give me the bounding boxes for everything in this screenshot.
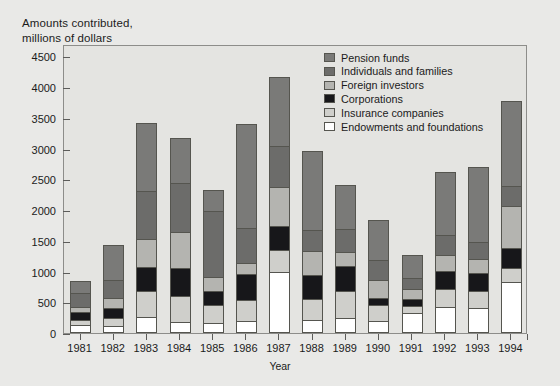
bar-segment[interactable] — [236, 124, 257, 228]
bar-segment[interactable] — [402, 278, 423, 289]
bar-segment[interactable] — [402, 289, 423, 298]
bar-segment[interactable] — [468, 259, 489, 274]
bar-segment[interactable] — [368, 220, 389, 261]
bar-segment[interactable] — [236, 300, 257, 320]
bar-segment[interactable] — [435, 307, 456, 333]
bar-segment[interactable] — [103, 298, 124, 308]
legend-item[interactable]: Pension funds — [324, 51, 483, 64]
bar-segment[interactable] — [368, 305, 389, 320]
bar-stack[interactable] — [302, 151, 323, 333]
bar-segment[interactable] — [402, 255, 423, 278]
legend-item[interactable]: Endowments and foundations — [324, 120, 483, 133]
bar-stack[interactable] — [203, 190, 224, 333]
bar-segment[interactable] — [468, 167, 489, 242]
bar-segment[interactable] — [269, 146, 290, 187]
bar-segment[interactable] — [70, 293, 91, 307]
bar-segment[interactable] — [335, 318, 356, 333]
bar-segment[interactable] — [402, 299, 423, 306]
bar-segment[interactable] — [302, 320, 323, 333]
bar-segment[interactable] — [368, 298, 389, 305]
bar-segment[interactable] — [468, 242, 489, 259]
bar-segment[interactable] — [203, 323, 224, 333]
bar-segment[interactable] — [203, 305, 224, 323]
bar-stack[interactable] — [269, 77, 290, 333]
bar-segment[interactable] — [269, 77, 290, 146]
bar-segment[interactable] — [368, 260, 389, 279]
bar-segment[interactable] — [269, 272, 290, 333]
bar-stack[interactable] — [170, 138, 191, 333]
bar-segment[interactable] — [136, 239, 157, 267]
bar-segment[interactable] — [236, 263, 257, 274]
bar-segment[interactable] — [70, 325, 91, 333]
bar-stack[interactable] — [368, 220, 389, 333]
bar-stack[interactable] — [335, 185, 356, 333]
bar-stack[interactable] — [70, 281, 91, 333]
bar-segment[interactable] — [501, 248, 522, 268]
bar-segment[interactable] — [335, 252, 356, 266]
bar-segment[interactable] — [203, 277, 224, 291]
bar-segment[interactable] — [501, 206, 522, 248]
bar-segment[interactable] — [368, 321, 389, 333]
bar-segment[interactable] — [170, 183, 191, 232]
bar-segment[interactable] — [136, 191, 157, 239]
bar-segment[interactable] — [501, 282, 522, 333]
bar-stack[interactable] — [501, 101, 522, 333]
bar-segment[interactable] — [402, 306, 423, 313]
bar-segment[interactable] — [170, 296, 191, 322]
bar-segment[interactable] — [335, 266, 356, 291]
bar-segment[interactable] — [70, 320, 91, 325]
bar-stack[interactable] — [468, 167, 489, 333]
bar-stack[interactable] — [402, 255, 423, 333]
bar-segment[interactable] — [435, 289, 456, 307]
bar-segment[interactable] — [103, 280, 124, 298]
bar-segment[interactable] — [335, 291, 356, 317]
bar-stack[interactable] — [136, 123, 157, 333]
bar-segment[interactable] — [269, 226, 290, 250]
bar-segment[interactable] — [103, 326, 124, 333]
bar-segment[interactable] — [203, 291, 224, 305]
legend-item[interactable]: Corporations — [324, 92, 483, 105]
bar-segment[interactable] — [269, 250, 290, 272]
bar-segment[interactable] — [501, 268, 522, 282]
bar-segment[interactable] — [501, 186, 522, 206]
bar-segment[interactable] — [236, 274, 257, 300]
bar-segment[interactable] — [302, 251, 323, 274]
bar-segment[interactable] — [468, 273, 489, 290]
bar-segment[interactable] — [170, 268, 191, 296]
bar-segment[interactable] — [136, 291, 157, 317]
bar-segment[interactable] — [302, 299, 323, 320]
bar-segment[interactable] — [435, 271, 456, 289]
bar-segment[interactable] — [435, 172, 456, 235]
bar-segment[interactable] — [70, 307, 91, 312]
legend-item[interactable]: Foreign investors — [324, 79, 483, 92]
bar-segment[interactable] — [368, 280, 389, 298]
bar-segment[interactable] — [70, 312, 91, 320]
bar-stack[interactable] — [435, 172, 456, 333]
bar-segment[interactable] — [468, 291, 489, 309]
legend-item[interactable]: Insurance companies — [324, 106, 483, 119]
bar-segment[interactable] — [170, 322, 191, 333]
bar-stack[interactable] — [103, 245, 124, 333]
bar-segment[interactable] — [335, 229, 356, 252]
bar-segment[interactable] — [402, 313, 423, 333]
bar-segment[interactable] — [170, 232, 191, 268]
bar-segment[interactable] — [302, 151, 323, 230]
bar-segment[interactable] — [136, 317, 157, 333]
bar-segment[interactable] — [136, 123, 157, 191]
bar-segment[interactable] — [203, 211, 224, 277]
bar-segment[interactable] — [203, 190, 224, 211]
bar-segment[interactable] — [302, 230, 323, 251]
bar-segment[interactable] — [136, 267, 157, 292]
bar-segment[interactable] — [435, 235, 456, 255]
bar-segment[interactable] — [302, 275, 323, 300]
bar-segment[interactable] — [236, 228, 257, 263]
bar-segment[interactable] — [170, 138, 191, 183]
bar-stack[interactable] — [236, 124, 257, 333]
bar-segment[interactable] — [103, 318, 124, 326]
bar-segment[interactable] — [435, 255, 456, 271]
bar-segment[interactable] — [236, 321, 257, 333]
bar-segment[interactable] — [70, 281, 91, 293]
bar-segment[interactable] — [103, 245, 124, 279]
bar-segment[interactable] — [468, 308, 489, 333]
bar-segment[interactable] — [269, 187, 290, 226]
